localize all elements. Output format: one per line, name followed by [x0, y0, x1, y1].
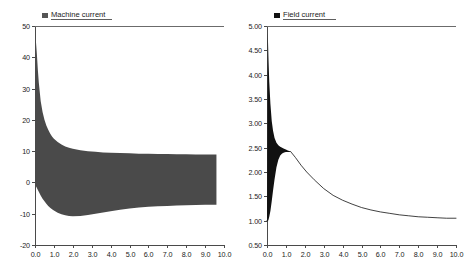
x-tick-label: 1.0 — [50, 250, 60, 259]
x-tick-label: 5.0 — [126, 250, 136, 259]
x-tick-label: 6.0 — [376, 250, 386, 259]
x-tick-label: 0.0 — [263, 250, 273, 259]
y-tick-label: 3.50 — [248, 95, 262, 104]
x-tick-label: 8.0 — [182, 250, 192, 259]
y-tick-label: 5.00 — [248, 22, 262, 31]
legend-label: Field current — [283, 10, 326, 19]
legend-label: Machine current — [51, 10, 106, 19]
x-tick-label: 7.0 — [163, 250, 173, 259]
y-tick-label: 20 — [22, 116, 30, 125]
x-tick-label: 3.0 — [320, 250, 330, 259]
y-tick-label: 0.50 — [248, 241, 262, 250]
y-tick-label: 2.00 — [248, 168, 262, 177]
y-tick-label: -20 — [20, 241, 30, 250]
x-tick-label: 4.0 — [107, 250, 117, 259]
field-current-plot[interactable]: 5.004.504.003.503.002.502.001.501.000.50… — [232, 0, 464, 270]
legend-marker-icon — [42, 13, 48, 18]
machine-current-plot[interactable]: 50403020100-10-200.01.02.03.04.05.06.07.… — [0, 0, 232, 270]
x-tick-label: 0.0 — [31, 250, 41, 259]
x-tick-label: 10.0 — [218, 250, 232, 259]
legend-marker-icon — [274, 13, 280, 18]
x-tick-label: 7.0 — [395, 250, 405, 259]
y-tick-label: 4.50 — [248, 46, 262, 55]
x-tick-label: 6.0 — [144, 250, 154, 259]
y-tick-label: 40 — [22, 53, 30, 62]
y-tick-label: 30 — [22, 85, 30, 94]
y-tick-label: 1.50 — [248, 192, 262, 201]
chart-panel-field-current: 5.004.504.003.503.002.502.001.501.000.50… — [232, 0, 464, 270]
x-tick-label: 8.0 — [414, 250, 424, 259]
data-trace-tail — [291, 152, 456, 219]
y-tick-label: 50 — [22, 22, 30, 31]
y-tick-label: -10 — [20, 210, 30, 219]
x-tick-label: 9.0 — [433, 250, 443, 259]
axis-lines — [267, 26, 456, 245]
chart-panel-machine-current: 50403020100-10-200.01.02.03.04.05.06.07.… — [0, 0, 232, 270]
y-tick-label: 10 — [22, 147, 30, 156]
x-tick-label: 1.0 — [282, 250, 292, 259]
data-trace-envelope — [267, 33, 291, 220]
y-tick-label: 2.50 — [248, 144, 262, 153]
y-tick-label: 1.00 — [248, 217, 262, 226]
y-tick-label: 4.00 — [248, 71, 262, 80]
x-tick-label: 4.0 — [339, 250, 349, 259]
figure-root: 50403020100-10-200.01.02.03.04.05.06.07.… — [0, 0, 464, 270]
data-trace-envelope — [35, 42, 216, 217]
x-tick-label: 5.0 — [358, 250, 368, 259]
y-tick-label: 0 — [26, 178, 30, 187]
x-tick-label: 10.0 — [450, 250, 464, 259]
x-tick-label: 9.0 — [201, 250, 211, 259]
y-tick-label: 3.00 — [248, 119, 262, 128]
x-tick-label: 3.0 — [88, 250, 98, 259]
x-tick-label: 2.0 — [69, 250, 79, 259]
x-tick-label: 2.0 — [301, 250, 311, 259]
